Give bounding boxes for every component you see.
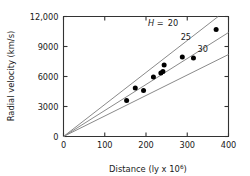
x-axis-ticks: [64, 17, 229, 137]
hubble-line-30: [64, 55, 229, 137]
chart-axes: [64, 17, 229, 137]
data-point: [180, 55, 185, 60]
y-tick-label: 6000: [38, 72, 59, 82]
y-axis-tick-labels: 030006000900012,000: [30, 12, 59, 142]
data-point: [151, 75, 156, 80]
plot-frame: [64, 17, 229, 137]
chart-figure: 030006000900012,000 0100200300400 H =202…: [0, 0, 250, 176]
curve-label-20: 20: [168, 18, 178, 28]
x-tick-label: 400: [221, 140, 237, 150]
data-point: [191, 56, 196, 61]
curve-label-30: 30: [198, 44, 208, 54]
x-tick-label: 100: [97, 140, 113, 150]
x-tick-label: 200: [138, 140, 154, 150]
data-point: [162, 63, 167, 68]
x-axis-title: Distance (ly x 106): [109, 164, 187, 174]
x-tick-label: 0: [61, 140, 66, 150]
curve-label-25: 25: [181, 32, 191, 42]
data-point: [214, 27, 219, 32]
y-axis-ticks: [64, 17, 229, 137]
hubble-line-20: [64, 17, 219, 137]
y-axis-title: Radial velocity (km/s): [6, 31, 16, 122]
data-point: [160, 69, 165, 74]
x-axis-tick-labels: 0100200300400: [61, 140, 236, 150]
y-tick-label: 0: [53, 132, 58, 142]
y-tick-label: 12,000: [30, 12, 59, 22]
data-point: [133, 86, 138, 91]
hubble-law-scatter-chart: 030006000900012,000 0100200300400 H =202…: [0, 0, 250, 176]
hubble-constant-lines: [64, 17, 229, 137]
galaxy-data-points: [124, 27, 219, 103]
data-point: [124, 98, 129, 103]
data-point: [141, 88, 146, 93]
x-tick-label: 300: [179, 140, 195, 150]
y-tick-label: 9000: [38, 42, 59, 52]
curve-label-H: H =: [148, 18, 164, 28]
y-tick-label: 3000: [38, 102, 59, 112]
